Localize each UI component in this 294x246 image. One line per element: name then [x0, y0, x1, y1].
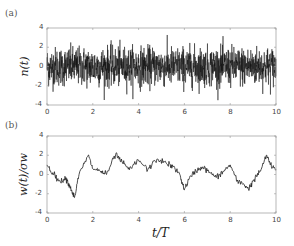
w-series-line — [47, 153, 276, 198]
x-tick-label: 0 — [45, 108, 49, 116]
x-tick-label: 8 — [228, 216, 232, 224]
x-tick-label: 0 — [45, 216, 49, 224]
y-tick-label: -2 — [35, 81, 42, 89]
y-tick-label: 4 — [39, 23, 43, 31]
y-axis-label-b: w(t)/σw — [17, 153, 30, 196]
x-tick-label: 2 — [91, 108, 95, 116]
noise-series-line — [47, 35, 276, 100]
x-tick-label: 4 — [137, 216, 141, 224]
y-tick-label: 0 — [39, 170, 43, 178]
x-tick-label: 6 — [182, 108, 186, 116]
y-tick-label: 2 — [39, 150, 43, 158]
x-axis-label-b: t/T — [152, 226, 169, 240]
y-tick-label: -4 — [35, 208, 42, 216]
y-axis-label-a: n(t) — [18, 56, 31, 76]
x-tick-label: 8 — [228, 108, 232, 116]
y-tick-label: -4 — [35, 100, 42, 108]
x-tick-label: 2 — [91, 216, 95, 224]
x-tick-label: 10 — [272, 108, 281, 116]
x-tick-label: 10 — [272, 216, 281, 224]
x-tick-label: 6 — [182, 216, 186, 224]
y-tick-label: 2 — [39, 42, 43, 50]
plot-frame — [47, 136, 276, 213]
y-tick-label: 4 — [39, 131, 43, 139]
x-tick-label: 4 — [137, 108, 141, 116]
y-tick-label: -2 — [35, 189, 42, 197]
chart-canvas — [0, 0, 294, 246]
y-tick-label: 0 — [39, 62, 43, 70]
